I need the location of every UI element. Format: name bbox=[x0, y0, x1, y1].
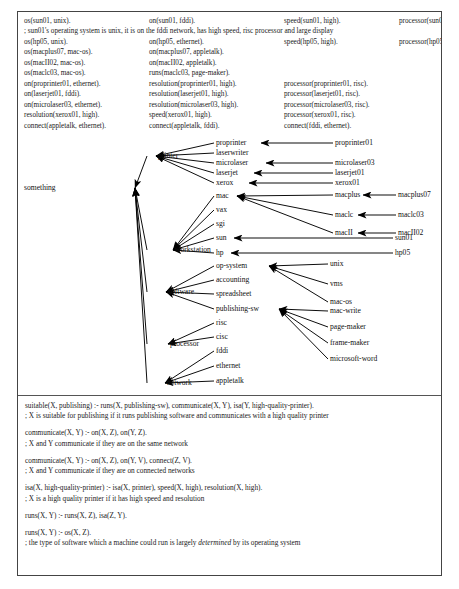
fact-cell: processor(laserjet01, risc). bbox=[284, 89, 360, 99]
fact-cell: processor(hp05, risc). bbox=[399, 37, 442, 47]
rule-block: suitable(X, publishing) :- runs(X, publi… bbox=[25, 401, 435, 422]
rule-text: runs(X, Y) :- os(X, Z). bbox=[25, 528, 435, 539]
tree-node-risc[interactable]: risc bbox=[216, 319, 227, 327]
tree-node-laserjet[interactable]: laserjet bbox=[216, 169, 238, 177]
tree-node-mac-os[interactable]: mac-os bbox=[330, 298, 352, 306]
fact-cell: on(proprinter01, ethernet). bbox=[24, 79, 149, 89]
fact-cell: os(hp05, unix). bbox=[24, 37, 149, 47]
rule-block: runs(X, Y) :- os(X, Z). ; the type of so… bbox=[25, 528, 435, 549]
rule-block: communicate(X, Y) :- on(X, Z), on(Y, Z).… bbox=[25, 428, 435, 449]
fact-cell: connect(appletalk, fddi). bbox=[149, 121, 284, 131]
tree-node-laserjet01[interactable]: laserjet01 bbox=[335, 169, 365, 177]
tree-node-publishing-sw[interactable]: publishing-sw bbox=[216, 305, 259, 313]
fact-cell: resolution(microlaser03, high). bbox=[149, 100, 284, 110]
rule-text: runs(X, Y) :- runs(X, Z), isa(Z, Y). bbox=[25, 511, 435, 522]
tree-node-proprinter01[interactable]: proprinter01 bbox=[335, 139, 373, 147]
rules-section: suitable(X, publishing) :- runs(X, publi… bbox=[18, 396, 441, 558]
tree-node-sgi[interactable]: sgi bbox=[216, 220, 225, 228]
fact-row: on(proprinter01, ethernet).resolution(pr… bbox=[24, 79, 435, 89]
fact-row: os(sun01, unix).on(sun01, fddi).speed(su… bbox=[24, 16, 435, 26]
fact-cell: resolution(proprinter01, high). bbox=[149, 79, 284, 89]
tree-node-xerox[interactable]: xerox bbox=[216, 179, 233, 187]
tree-node-page-maker[interactable]: page-maker bbox=[330, 323, 366, 331]
tree-node-sun[interactable]: sun bbox=[216, 234, 227, 242]
tree-node-vms[interactable]: vms bbox=[330, 280, 343, 288]
fact-row: os(macplus07, mac-os).on(macplus07, appl… bbox=[24, 47, 435, 57]
rule-comment: ; X and Y communicate if they are on con… bbox=[25, 466, 435, 477]
fact-comment: ; sun01's operating system is unix, it i… bbox=[24, 26, 435, 36]
fact-row: on(laserjet01, fddi).resolution(laserjet… bbox=[24, 89, 435, 99]
fact-cell: runs(maclc03, page-maker). bbox=[149, 68, 230, 78]
tree-node-software[interactable]: software bbox=[168, 288, 194, 296]
fact-cell: connect(appletalk, ethernet). bbox=[24, 121, 149, 131]
fact-cell: processor(microlaser03, risc). bbox=[284, 100, 370, 110]
tree-node-macplus[interactable]: macplus bbox=[335, 191, 360, 199]
tree-node-fddi[interactable]: fddi bbox=[216, 347, 228, 355]
tree-node-ethernet[interactable]: ethernet bbox=[216, 362, 240, 370]
fact-cell: on(microlaser03, ethernet). bbox=[24, 100, 149, 110]
tree-node-macII[interactable]: macII bbox=[335, 229, 353, 237]
tree-node-mac-write[interactable]: mac-write bbox=[330, 307, 361, 315]
fact-cell: os(macplus07, mac-os). bbox=[24, 47, 149, 57]
rule-block: isa(X, high-quality-printer) :- isa(X, p… bbox=[25, 483, 435, 504]
tree-node-cisc[interactable]: cisc bbox=[216, 333, 228, 341]
tree-node-mac[interactable]: mac bbox=[216, 192, 229, 200]
fact-row: os(macII02, mac-os).on(macII02, appletal… bbox=[24, 58, 435, 68]
fact-row: on(microlaser03, ethernet).resolution(mi… bbox=[24, 100, 435, 110]
fact-cell: on(laserjet01, fddi). bbox=[24, 89, 149, 99]
fact-cell: processor(proprinter01, risc). bbox=[284, 79, 368, 89]
tree-node-microlaser[interactable]: microlaser bbox=[216, 159, 248, 167]
tree-node-printer[interactable]: printer bbox=[158, 152, 178, 160]
tree-node-spreadsheet[interactable]: spreadsheet bbox=[216, 290, 251, 298]
tree-node-network[interactable]: network bbox=[167, 379, 192, 387]
fact-cell: processor(sun01, risc). bbox=[399, 16, 442, 26]
tree-node-laserwriter[interactable]: laserwriter bbox=[216, 149, 248, 157]
tree-node-vax[interactable]: vax bbox=[216, 206, 227, 214]
tree-node-frame-maker[interactable]: frame-maker bbox=[330, 339, 369, 347]
taxonomy-tree-diagram: something printer workstation software p… bbox=[18, 133, 441, 395]
fact-row: os(maclc03, mac-os).runs(maclc03, page-m… bbox=[24, 68, 435, 78]
fact-row: connect(appletalk, ethernet).connect(app… bbox=[24, 121, 435, 131]
tree-node-unix[interactable]: unix bbox=[330, 260, 344, 268]
tree-node-microsoft-word[interactable]: microsoft-word bbox=[330, 355, 377, 363]
rule-comment: ; the type of software which a machine c… bbox=[25, 538, 435, 549]
tree-node-hp05[interactable]: hp05 bbox=[395, 249, 410, 257]
tree-node-accounting[interactable]: accounting bbox=[216, 276, 249, 284]
fact-cell: os(maclc03, mac-os). bbox=[24, 68, 149, 78]
fact-cell: processor(xerox01, risc). bbox=[284, 110, 356, 120]
tree-node-proprinter[interactable]: proprinter bbox=[216, 139, 246, 147]
fact-cell: connect(fddi, ethernet). bbox=[284, 121, 351, 131]
tree-node-workstation[interactable]: workstation bbox=[175, 246, 211, 254]
tree-node-maclc[interactable]: maclc bbox=[335, 211, 353, 219]
fact-row: resolution(xerox01, high).speed(xerox01,… bbox=[24, 110, 435, 120]
tree-node-microlaser03[interactable]: microlaser03 bbox=[335, 159, 375, 167]
rule-comment: ; X and Y communicate if they are on the… bbox=[25, 439, 435, 450]
rule-comment: ; X is suitable for publishing if it run… bbox=[25, 411, 435, 422]
tree-node-op-system[interactable]: op-system bbox=[216, 262, 247, 270]
fact-cell: on(macII02, appletalk). bbox=[149, 58, 217, 68]
rule-comment: ; X is a high quality printer if it has … bbox=[25, 494, 435, 505]
tree-node-xerox01[interactable]: xerox01 bbox=[335, 179, 360, 187]
fact-cell: os(sun01, unix). bbox=[24, 16, 149, 26]
tree-node-appletalk[interactable]: appletalk bbox=[216, 377, 244, 385]
fact-cell: speed(xerox01, high). bbox=[149, 110, 284, 120]
fact-row: os(hp05, unix).on(hp05, ethernet).speed(… bbox=[24, 37, 435, 47]
tree-node-hp[interactable]: hp bbox=[216, 249, 224, 257]
rule-comment-post: by its operating system bbox=[231, 538, 300, 547]
fact-cell: speed(hp05, high). bbox=[284, 37, 399, 47]
tree-node-processor[interactable]: processor bbox=[170, 340, 199, 348]
rule-text: communicate(X, Y) :- on(X, Z), on(Y, V),… bbox=[25, 456, 435, 467]
fact-cell: resolution(laserjet01, high). bbox=[149, 89, 284, 99]
knowledge-base-page: os(sun01, unix).on(sun01, fddi).speed(su… bbox=[17, 11, 442, 576]
fact-cell: speed(sun01, high). bbox=[284, 16, 399, 26]
rule-text: communicate(X, Y) :- on(X, Z), on(Y, Z). bbox=[25, 428, 435, 439]
rule-comment-emphasis: determined bbox=[198, 538, 231, 547]
tree-node-maclc03[interactable]: maclc03 bbox=[398, 211, 424, 219]
tree-node-something[interactable]: something bbox=[24, 184, 56, 192]
fact-cell: resolution(xerox01, high). bbox=[24, 110, 149, 120]
fact-cell: on(hp05, ethernet). bbox=[149, 37, 284, 47]
fact-cell: on(sun01, fddi). bbox=[149, 16, 284, 26]
tree-node-macplus07[interactable]: macplus07 bbox=[398, 191, 431, 199]
facts-section: os(sun01, unix).on(sun01, fddi).speed(su… bbox=[18, 12, 441, 133]
tree-node-macII02[interactable]: macII02 bbox=[398, 229, 423, 237]
